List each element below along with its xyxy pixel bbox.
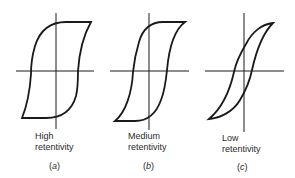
panel-a-caption-line1: High [35,131,74,142]
panel-c-paren-close: ) [245,162,248,172]
panel-c-diagram [205,13,284,132]
panel-c-caption-line2: retentivity [222,144,261,155]
panel-a-caption: High retentivity [35,131,74,153]
panel-a-caption-line2: retentivity [35,142,74,153]
panel-b-caption: Medium retentivity [128,131,167,153]
panel-c-caption: Low retentivity [222,133,261,155]
panel-b-paren-close: ) [151,161,154,171]
panel-a-paren-close: ) [57,161,60,171]
panel-a-diagram [16,13,94,129]
panel-b-caption-line1: Medium [128,131,167,142]
hysteresis-figure: High retentivity (a) Medium retentivity … [0,0,295,178]
panel-b-caption-line2: retentivity [128,142,167,153]
panel-a-label: (a) [49,161,60,171]
panel-b-diagram [110,13,189,130]
panel-b-label: (b) [143,161,154,171]
panel-c-label: (c) [237,162,248,172]
panel-c-caption-line1: Low [222,133,261,144]
